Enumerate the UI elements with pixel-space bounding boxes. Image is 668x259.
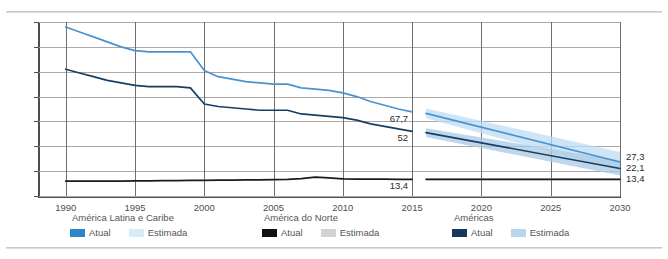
line-atual-am-rica-do-norte xyxy=(66,177,412,181)
legend-item-estimada[interactable]: Estimada xyxy=(321,227,380,238)
legend-group-title: Américas xyxy=(454,212,583,223)
legend-swatch-estimada xyxy=(321,229,336,237)
legend-group-am-rica-do-norte: América do NorteAtualEstimada xyxy=(262,212,393,238)
value-label-22-1: 22,1 xyxy=(626,162,645,173)
legend-swatch-atual xyxy=(70,229,85,237)
legend-swatch-estimada xyxy=(511,229,526,237)
bottom-divider-rule xyxy=(6,247,662,249)
legend-items-row: AtualEstimada xyxy=(452,227,583,238)
chart-figure: 020406080100120140 199019952000200520102… xyxy=(0,0,668,259)
legend-group-title: América do Norte xyxy=(264,212,393,223)
legend-swatch-atual xyxy=(262,229,277,237)
value-label-67-7: 67,7 xyxy=(382,113,408,124)
value-label-13-4: 13,4 xyxy=(382,180,408,191)
line-atual-am-ricas xyxy=(66,69,412,131)
plot-area: 020406080100120140 199019952000200520102… xyxy=(38,22,620,196)
legend-label: Estimada xyxy=(148,227,188,238)
legend-label: Atual xyxy=(471,227,493,238)
legend-item-atual[interactable]: Atual xyxy=(262,227,303,238)
legend-swatch-atual xyxy=(452,229,467,237)
legend-group-am-rica-latina-e-caribe: América Latina e CaribeAtualEstimada xyxy=(70,212,201,238)
legend-label: Atual xyxy=(89,227,111,238)
top-divider-rule xyxy=(6,11,662,13)
value-label-13-4: 13,4 xyxy=(626,173,645,184)
legend-label: Estimada xyxy=(340,227,380,238)
legend-item-atual[interactable]: Atual xyxy=(70,227,111,238)
legend-items-row: AtualEstimada xyxy=(70,227,201,238)
value-label-27-3: 27,3 xyxy=(626,151,645,162)
series-plot xyxy=(38,22,620,196)
legend-label: Estimada xyxy=(530,227,570,238)
gridline-y-0 xyxy=(38,196,620,197)
gridline-x-2030 xyxy=(620,22,621,196)
line-atual-am-rica-latina-e-caribe xyxy=(66,27,412,112)
legend-item-estimada[interactable]: Estimada xyxy=(511,227,570,238)
legend-group-am-ricas: AméricasAtualEstimada xyxy=(452,212,583,238)
chart-legend: América Latina e CaribeAtualEstimadaAmér… xyxy=(0,212,668,244)
legend-item-estimada[interactable]: Estimada xyxy=(129,227,188,238)
legend-label: Atual xyxy=(281,227,303,238)
value-label-52: 52 xyxy=(382,132,408,143)
legend-items-row: AtualEstimada xyxy=(262,227,393,238)
legend-group-title: América Latina e Caribe xyxy=(72,212,201,223)
legend-item-atual[interactable]: Atual xyxy=(452,227,493,238)
y-tick-mark-0 xyxy=(34,196,39,197)
legend-swatch-estimada xyxy=(129,229,144,237)
